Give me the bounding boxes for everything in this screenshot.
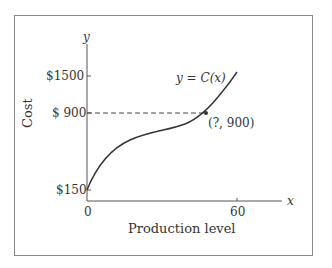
x-axis-var: x: [287, 195, 294, 207]
y-tick-label-150: $150: [56, 184, 87, 196]
y-axis-var: y: [83, 31, 90, 43]
cost-curve: [87, 72, 237, 190]
point-marker: [204, 111, 208, 115]
x-tick-label-60: 60: [230, 206, 245, 218]
x-tick-label-0: 0: [84, 206, 92, 218]
point-label: (?, 900): [208, 117, 254, 129]
y-axis-title: Cost: [21, 98, 34, 128]
y-tick-label-900: $ 900: [52, 107, 86, 119]
y-tick-label-1500: $1500: [46, 70, 84, 82]
x-axis-title: Production level: [128, 222, 236, 235]
curve-label: y = C(x): [176, 72, 226, 84]
